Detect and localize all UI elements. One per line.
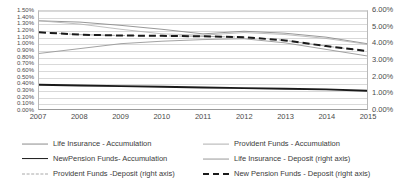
left-axis-tick: 0.70% [17, 60, 34, 66]
legend-item[interactable]: NewPension Funds- Accumulation [22, 151, 207, 166]
legend-swatch-icon [203, 154, 229, 164]
legend-item[interactable]: Provident Funds -Deposit (right axis) [22, 166, 207, 181]
legend-swatch-icon [203, 139, 229, 149]
left-axis-tick: 1.20% [17, 27, 34, 33]
left-axis-tick: 0.60% [17, 67, 34, 73]
series-line [39, 39, 367, 56]
legend-swatch-icon [203, 169, 229, 179]
legend-label: Life Insurance - Accumulation [53, 139, 151, 148]
x-axis-tick: 2014 [318, 112, 335, 122]
series-line [39, 21, 367, 44]
left-axis-tick: 0.80% [17, 54, 34, 60]
x-axis-tick: 2008 [71, 112, 88, 122]
right-axis-tick: 6.00% [372, 6, 393, 14]
right-axis-tick: 3.00% [372, 56, 393, 64]
right-axis-tick: 2.00% [372, 73, 393, 81]
x-axis-tick: 2009 [112, 112, 129, 122]
left-axis-tick: 0.20% [17, 94, 34, 100]
legend-label: Provident Funds -Deposit (right axis) [53, 169, 175, 178]
right-axis: 6.00%5.00%4.00%3.00%2.00%1.00%0.00% [370, 4, 410, 116]
legend-label: NewPension Funds- Accumulation [53, 154, 167, 163]
left-axis-tick: 0.10% [17, 100, 34, 106]
left-axis-tick: 1.50% [17, 7, 34, 13]
legend-column-right: Provident Funds - AccumulationLife Insur… [203, 136, 408, 181]
legend-swatch-icon [22, 139, 48, 149]
legend-item[interactable]: New Pension Funds - Deposit (right axis) [203, 166, 408, 181]
legend-swatch-icon [22, 169, 48, 179]
left-axis-tick: 1.10% [17, 34, 34, 40]
x-axis: 200720082009201020112012201320142015 [38, 112, 368, 126]
x-axis-tick: 2012 [236, 112, 253, 122]
chart-legend: Life Insurance - AccumulationNewPension … [0, 136, 410, 181]
legend-label: New Pension Funds - Deposit (right axis) [234, 169, 370, 178]
legend-item[interactable]: Life Insurance - Deposit (right axis) [203, 151, 408, 166]
left-axis-tick: 1.30% [17, 20, 34, 26]
x-axis-tick: 2015 [360, 112, 377, 122]
legend-label: Provident Funds - Accumulation [234, 139, 340, 148]
plot-area [38, 10, 368, 110]
left-axis: 1.50%1.40%1.30%1.20%1.10%1.00%0.90%0.80%… [0, 4, 36, 116]
left-axis-tick: 0.50% [17, 74, 34, 80]
series-lines [39, 11, 367, 109]
x-axis-tick: 2011 [195, 112, 211, 122]
legend-item[interactable]: Life Insurance - Accumulation [22, 136, 207, 151]
right-axis-tick: 5.00% [372, 23, 393, 31]
left-axis-tick: 0.40% [17, 80, 34, 86]
left-axis-tick: 0.30% [17, 87, 34, 93]
x-axis-tick: 2013 [277, 112, 294, 122]
right-axis-tick: 1.00% [372, 89, 393, 97]
series-line [39, 21, 367, 45]
right-axis-tick: 4.00% [372, 39, 393, 47]
series-line [39, 85, 367, 91]
left-axis-tick: 0.90% [17, 47, 34, 53]
chart-container: 1.50%1.40%1.30%1.20%1.10%1.00%0.90%0.80%… [0, 0, 410, 181]
legend-item[interactable]: Provident Funds - Accumulation [203, 136, 408, 151]
legend-label: Life Insurance - Deposit (right axis) [234, 154, 350, 163]
legend-column-left: Life Insurance - AccumulationNewPension … [22, 136, 207, 181]
x-axis-tick: 2010 [153, 112, 170, 122]
left-axis-tick: 1.00% [17, 40, 34, 46]
left-axis-tick: 1.40% [17, 14, 34, 20]
x-axis-tick: 2007 [30, 112, 47, 122]
legend-swatch-icon [22, 154, 48, 164]
